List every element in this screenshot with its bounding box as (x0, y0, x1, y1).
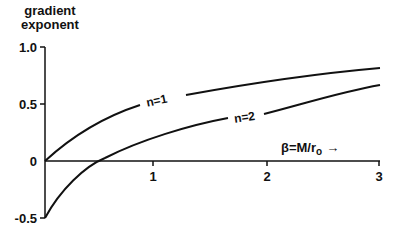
y-tick-neg0.5: -0.5 (15, 211, 37, 226)
x-tick-2: 2 (263, 169, 270, 184)
plot-area: 1.0 0.5 0 -0.5 1 2 3 β=M/ro→ n=1 n=2 (0, 0, 396, 235)
x-tick-1: 1 (149, 169, 156, 184)
chart: gradient exponent 1.0 0.5 0 -0.5 1 2 3 β… (0, 0, 396, 235)
y-tick-1.0: 1.0 (19, 40, 37, 55)
series-n2-label: n=2 (233, 109, 256, 126)
x-axis-label: β=M/ro→ (281, 140, 339, 157)
y-tick-0: 0 (30, 154, 37, 169)
series-n1-label: n=1 (145, 92, 169, 110)
y-tick-0.5: 0.5 (19, 97, 37, 112)
x-tick-3: 3 (375, 169, 382, 184)
